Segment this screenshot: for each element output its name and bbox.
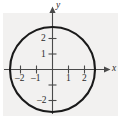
- coordinate-plane-svg: [0, 0, 121, 119]
- graph-figure: –2 –1 1 2 2 1 –2 x y: [0, 0, 121, 119]
- x-axis-arrow-icon: [104, 66, 111, 72]
- x-tick-label-neg1: –1: [31, 74, 41, 84]
- y-tick-label-pos2: 2: [41, 34, 46, 44]
- x-tick-label-neg2: –2: [15, 74, 25, 84]
- y-axis-arrow-icon: [49, 7, 55, 14]
- y-tick-label-neg2: –2: [37, 96, 47, 106]
- x-tick-label-pos2: 2: [82, 74, 87, 84]
- y-tick-label-pos1: 1: [41, 50, 46, 60]
- x-tick-label-pos1: 1: [66, 74, 71, 84]
- x-axis-name-label: x: [112, 64, 116, 74]
- y-axis-name-label: y: [56, 1, 60, 11]
